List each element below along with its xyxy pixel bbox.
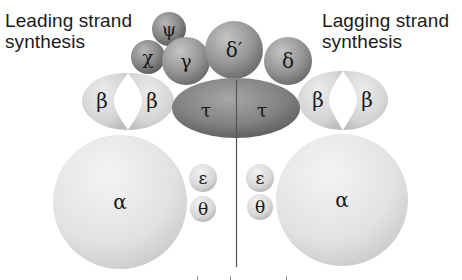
beta-right-1-label: β [312,88,324,112]
theta-left-label: θ [198,199,208,219]
alpha-left: α [53,135,187,269]
theta-right: θ [247,194,273,220]
gamma-subunit: γ [162,37,210,85]
lagging-caption-line2: synthesis [322,31,449,52]
tau-left-label: τ [201,99,212,121]
epsilon-left: ε [189,164,217,192]
epsilon-right: ε [246,164,274,192]
beta-right-2-label: β [361,88,373,112]
lagging-caption-line1: Lagging strand [322,10,449,31]
truncated-text-mark [197,276,198,280]
chi-subunit: χ [131,40,165,74]
tau-right-label: τ [257,99,268,121]
theta-right-label: θ [255,197,265,217]
leading-caption-line2: synthesis [5,31,132,52]
beta-left-2-label: β [146,89,158,113]
truncated-text-mark [230,276,231,280]
alpha-right-label: α [335,188,349,212]
leading-strand-caption: Leading strand synthesis [5,10,132,52]
epsilon-right-label: ε [256,168,265,188]
beta-clamp-right: β β [298,71,388,130]
psi-label: ψ [162,19,176,40]
beta-clamp-left: β β [82,73,174,130]
theta-left: θ [190,196,216,222]
truncated-text-mark [286,276,287,280]
delta-subunit: δ [264,37,312,85]
dna-polymerase-iii-holoenzyme-diagram: α α ε θ ε θ β β [0,0,462,280]
delta-prime-label: δ′ [226,38,243,62]
leading-caption-line1: Leading strand [5,10,132,31]
gamma-label: γ [180,50,191,72]
delta-prime-subunit: δ′ [205,21,263,79]
alpha-right: α [276,134,408,266]
epsilon-left-label: ε [199,168,208,188]
chi-label: χ [143,47,154,68]
alpha-left-label: α [113,190,127,214]
lagging-strand-caption: Lagging strand synthesis [322,10,449,52]
beta-left-1-label: β [96,89,108,113]
delta-label: δ [282,49,294,73]
